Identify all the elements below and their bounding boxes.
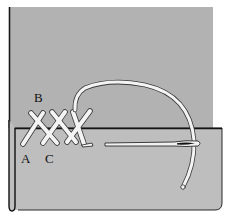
stitch-diagram: B A C: [0, 0, 233, 218]
label-c: C: [45, 152, 54, 165]
label-b: B: [34, 91, 43, 104]
label-a: A: [21, 152, 30, 165]
diagram-canvas: [0, 0, 233, 218]
